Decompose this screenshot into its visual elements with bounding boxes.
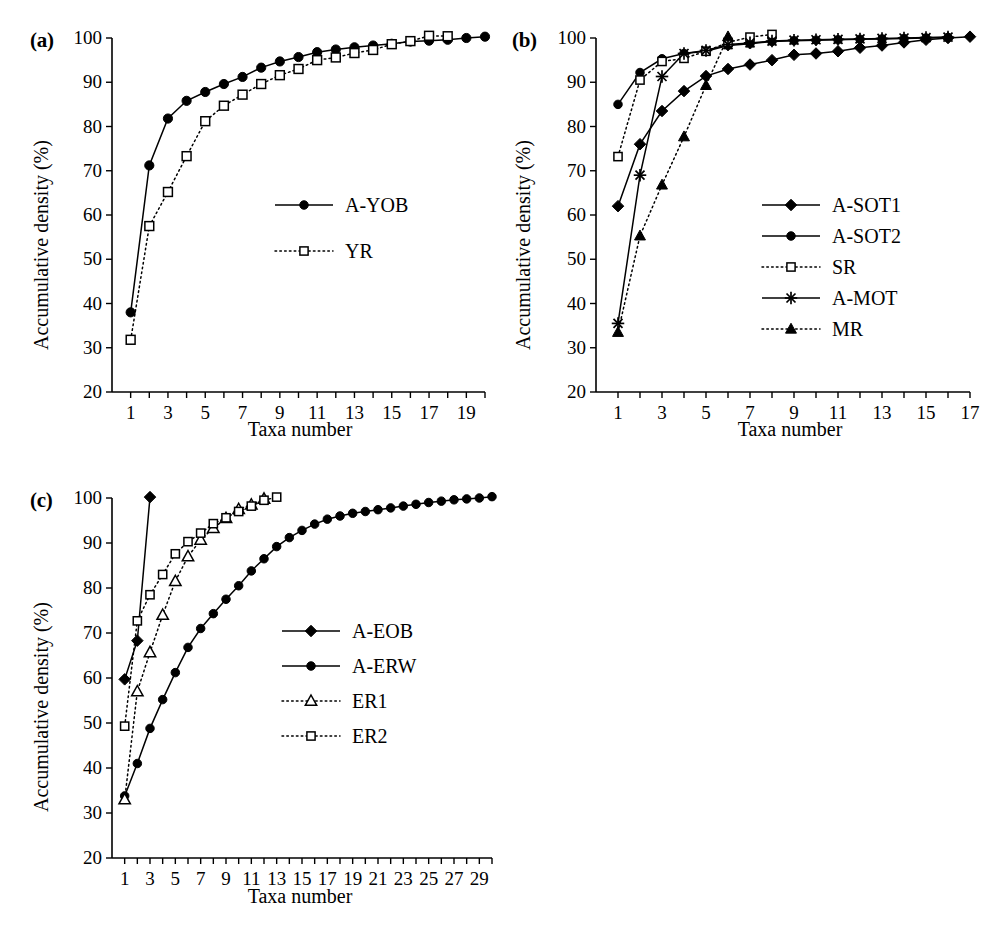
y-tick-label: 50 bbox=[83, 712, 102, 733]
marker-filled-diamond bbox=[132, 635, 144, 647]
y-tick-label: 40 bbox=[83, 757, 102, 778]
series-markers-A-YOB bbox=[126, 32, 490, 317]
marker-filled-diamond bbox=[144, 491, 156, 503]
marker-open-square bbox=[443, 32, 452, 41]
marker-filled-circle bbox=[257, 63, 266, 72]
marker-filled-circle bbox=[234, 582, 243, 591]
marker-filled-circle bbox=[247, 567, 256, 576]
marker-star bbox=[876, 32, 889, 45]
marker-filled-circle bbox=[272, 542, 281, 551]
panel-a-label: (a) bbox=[30, 28, 54, 53]
y-tick-label: 80 bbox=[567, 116, 586, 137]
y-tick-label: 60 bbox=[83, 667, 102, 688]
legend-label: YR bbox=[345, 240, 373, 262]
marker-filled-diamond bbox=[964, 31, 976, 43]
marker-open-square bbox=[273, 493, 281, 501]
panel-c-x-axis-title: Taxa number bbox=[100, 885, 500, 908]
marker-filled-circle bbox=[294, 52, 303, 61]
marker-star bbox=[766, 35, 779, 48]
marker-open-square bbox=[369, 46, 378, 55]
marker-filled-diamond bbox=[612, 200, 624, 212]
marker-filled-circle bbox=[323, 515, 332, 524]
marker-filled-triangle bbox=[723, 31, 734, 41]
series-YR bbox=[131, 36, 448, 340]
marker-filled-circle bbox=[238, 72, 247, 81]
y-tick-label: 70 bbox=[83, 160, 102, 181]
series-A-YOB bbox=[131, 37, 485, 313]
marker-filled-triangle bbox=[701, 80, 712, 90]
legend-label: A-YOB bbox=[345, 194, 408, 216]
marker-filled-circle bbox=[462, 33, 471, 42]
marker-open-square bbox=[350, 49, 359, 58]
marker-filled-circle bbox=[480, 32, 489, 41]
marker-open-square bbox=[294, 65, 303, 74]
legend-item-A-ERW[interactable]: A-ERW bbox=[282, 655, 417, 677]
marker-open-square bbox=[300, 247, 308, 255]
legend-label: ER2 bbox=[352, 725, 388, 747]
marker-open-square bbox=[121, 722, 129, 730]
marker-filled-diamond bbox=[785, 199, 797, 211]
marker-filled-diamond bbox=[722, 63, 734, 75]
marker-filled-diamond bbox=[634, 138, 646, 150]
series-A-SOT1 bbox=[618, 37, 970, 207]
legend-label: A-ERW bbox=[352, 655, 417, 677]
series-line bbox=[618, 37, 970, 207]
legend-item-YR[interactable]: YR bbox=[275, 240, 373, 262]
marker-open-square bbox=[331, 53, 340, 62]
legend-item-A-YOB[interactable]: A-YOB bbox=[275, 194, 408, 216]
marker-filled-circle bbox=[475, 494, 484, 503]
marker-filled-circle bbox=[158, 695, 167, 704]
marker-open-square bbox=[614, 152, 622, 160]
panel-b-label: (b) bbox=[512, 28, 537, 53]
y-tick-label: 30 bbox=[83, 802, 102, 823]
marker-open-square bbox=[164, 188, 173, 197]
legend-label: SR bbox=[832, 256, 857, 278]
marker-open-square bbox=[184, 538, 192, 546]
legend-item-ER1[interactable]: ER1 bbox=[282, 690, 388, 712]
marker-star bbox=[942, 31, 955, 44]
legend-item-A-SOT1[interactable]: A-SOT1 bbox=[762, 194, 901, 216]
legend-item-MR[interactable]: MR bbox=[762, 318, 864, 340]
legend-item-A-SOT2[interactable]: A-SOT2 bbox=[762, 225, 901, 247]
marker-open-square bbox=[222, 514, 230, 522]
marker-filled-circle bbox=[163, 114, 172, 123]
marker-open-square bbox=[260, 496, 268, 504]
legend: A-YOBYR bbox=[275, 194, 408, 262]
marker-star bbox=[744, 37, 757, 50]
marker-filled-circle bbox=[298, 526, 307, 535]
y-tick-label: 40 bbox=[567, 293, 586, 314]
legend-item-SR[interactable]: SR bbox=[762, 256, 857, 278]
series-A-ERW bbox=[125, 497, 492, 796]
marker-filled-diamond bbox=[305, 625, 317, 637]
marker-open-square bbox=[219, 101, 228, 110]
panel-b-plot: 20304050607080901001357911131517A-SOT1A-… bbox=[500, 0, 1002, 420]
y-tick-label: 40 bbox=[83, 293, 102, 314]
panel-a-plot: 2030405060708090100135791113151719A-YOBY… bbox=[0, 0, 510, 420]
marker-filled-triangle bbox=[679, 131, 690, 141]
marker-filled-circle bbox=[307, 662, 316, 671]
legend-item-A-EOB[interactable]: A-EOB bbox=[282, 620, 413, 642]
marker-filled-circle bbox=[374, 505, 383, 514]
marker-star bbox=[656, 70, 669, 83]
marker-filled-diamond bbox=[119, 674, 131, 686]
marker-open-square bbox=[257, 80, 266, 89]
y-tick-label: 30 bbox=[83, 337, 102, 358]
panel-b-x-axis-title: Taxa number bbox=[590, 418, 990, 441]
marker-open-square bbox=[145, 222, 154, 231]
marker-open-square bbox=[787, 263, 795, 271]
marker-open-square bbox=[235, 507, 243, 515]
marker-open-square bbox=[307, 732, 315, 740]
series-markers-MR bbox=[613, 31, 734, 336]
marker-open-triangle bbox=[144, 646, 155, 656]
marker-open-square bbox=[209, 520, 217, 528]
marker-open-square bbox=[126, 335, 135, 344]
marker-open-square bbox=[201, 117, 210, 126]
marker-filled-diamond bbox=[766, 54, 778, 66]
marker-open-triangle bbox=[170, 575, 181, 585]
series-markers-ER2 bbox=[121, 493, 281, 730]
marker-open-square bbox=[159, 570, 167, 578]
legend-item-ER2[interactable]: ER2 bbox=[282, 725, 388, 747]
series-line bbox=[131, 37, 485, 313]
marker-filled-circle bbox=[184, 643, 193, 652]
legend-item-A-MOT[interactable]: A-MOT bbox=[762, 287, 898, 309]
